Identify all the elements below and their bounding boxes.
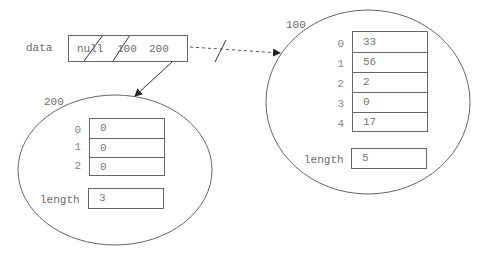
object-200-length-label: length	[40, 194, 80, 206]
length-value: 5	[352, 149, 426, 168]
array-cell: 2	[353, 72, 427, 92]
object-100-length-label: length	[304, 154, 344, 166]
array-index: 3	[330, 98, 344, 110]
array-index: 1	[67, 141, 81, 153]
array-cell: 0	[90, 138, 164, 157]
object-100-array: 33 56 2 0 17	[352, 31, 428, 132]
length-value: 3	[89, 189, 163, 208]
array-index: 2	[67, 160, 81, 172]
array-cell: 0	[353, 92, 427, 112]
reference-cut-slash	[215, 40, 226, 62]
slot-100: 100	[117, 43, 137, 55]
object-100-address: 100	[286, 19, 306, 31]
array-cell: 0	[90, 157, 164, 176]
array-index: 0	[67, 124, 81, 136]
array-cell: 33	[353, 32, 427, 52]
array-cell: 56	[353, 52, 427, 72]
array-index: 4	[330, 118, 344, 130]
object-200-array: 0 0 0	[89, 118, 165, 176]
old-reference-arrow	[190, 47, 280, 53]
array-cell: 0	[90, 119, 164, 138]
object-100-length-box: 5	[351, 148, 427, 169]
variable-reference-box: null 100 200	[68, 35, 188, 62]
current-reference-arrow	[135, 62, 172, 96]
array-index: 1	[330, 58, 344, 70]
slot-null: null	[77, 43, 103, 55]
array-index: 2	[330, 78, 344, 90]
object-200-length-box: 3	[88, 188, 164, 209]
array-cell: 17	[353, 112, 427, 132]
slot-200: 200	[149, 43, 169, 55]
variable-label: data	[26, 42, 52, 54]
object-200-address: 200	[44, 96, 64, 108]
array-index: 0	[330, 38, 344, 50]
